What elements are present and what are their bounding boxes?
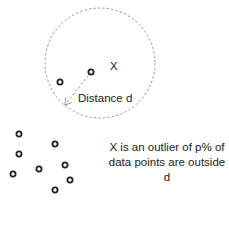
- point-x-label: X: [110, 61, 118, 73]
- cluster-point: [36, 166, 41, 171]
- caption-line-2: data points are outside d: [108, 155, 226, 185]
- cluster-point: [16, 131, 21, 136]
- distance-label: Distance d: [78, 93, 132, 105]
- caption-line-1: X is an outlier of p% of: [108, 140, 226, 155]
- data-points: [10, 69, 93, 192]
- cluster-point: [62, 162, 67, 167]
- cluster-point: [16, 151, 21, 156]
- outlier-caption: X is an outlier of p% of data points are…: [108, 140, 226, 185]
- cluster-point: [10, 171, 15, 176]
- inner-point: [57, 79, 62, 84]
- cluster-point: [52, 187, 57, 192]
- cluster-point: [52, 141, 57, 146]
- cluster-point: [67, 177, 72, 182]
- point-x: [88, 69, 93, 74]
